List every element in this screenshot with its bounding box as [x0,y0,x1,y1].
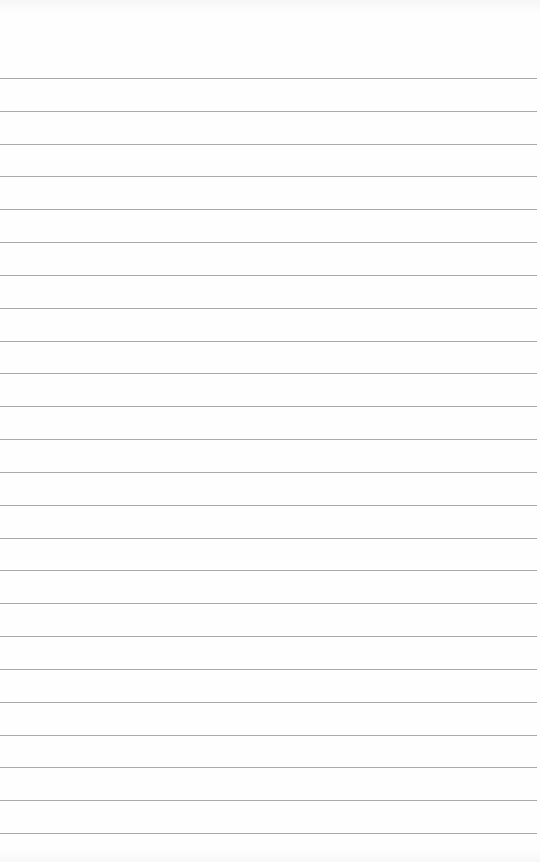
ruled-line [0,603,537,604]
ruled-line [0,373,537,374]
ruled-line [0,176,537,177]
ruled-line [0,669,537,670]
ruled-line [0,341,537,342]
ruled-line [0,111,537,112]
ruled-line [0,209,537,210]
ruled-line [0,472,537,473]
ruled-line [0,308,537,309]
ruled-line [0,800,537,801]
ruled-line [0,406,537,407]
ruled-line [0,833,537,834]
ruled-line [0,636,537,637]
paper-bottom-edge [0,850,540,862]
ruled-line [0,702,537,703]
ruled-line [0,275,537,276]
ruled-line [0,505,537,506]
ruled-line [0,538,537,539]
lined-paper-page [0,0,540,862]
ruled-line [0,78,537,79]
ruled-line [0,570,537,571]
ruled-line [0,767,537,768]
ruled-lines [0,0,540,862]
ruled-line [0,735,537,736]
ruled-line [0,144,537,145]
ruled-line [0,439,537,440]
ruled-line [0,242,537,243]
